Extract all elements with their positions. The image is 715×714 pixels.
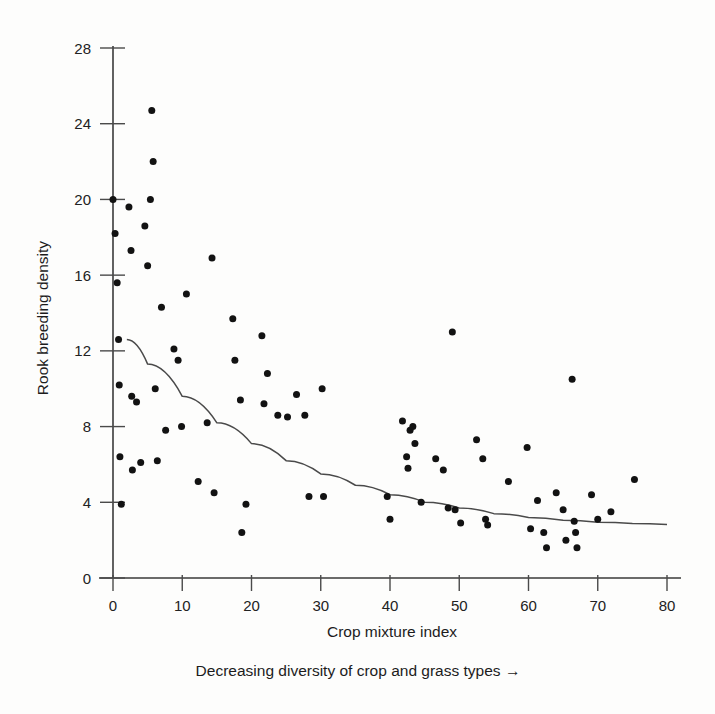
data-point: [409, 423, 416, 430]
data-point: [445, 504, 452, 511]
x-tick-label: 10: [174, 597, 191, 614]
x-tick-label: 80: [659, 597, 676, 614]
data-point: [560, 506, 567, 513]
data-point: [158, 304, 165, 311]
data-point: [110, 196, 117, 203]
data-point: [154, 457, 161, 464]
data-point: [231, 357, 238, 364]
y-tick-label: 4: [83, 494, 91, 511]
data-point: [178, 423, 185, 430]
data-point: [293, 391, 300, 398]
y-axis-title: Rook breeding density: [34, 241, 51, 395]
x-tick-label: 30: [312, 597, 329, 614]
data-point: [588, 491, 595, 498]
y-tick-label: 12: [74, 342, 91, 359]
x-axis-title: Crop mixture index: [327, 623, 457, 640]
x-tick-label: 70: [589, 597, 606, 614]
data-point: [116, 381, 123, 388]
data-point: [569, 376, 576, 383]
data-point: [432, 455, 439, 462]
y-tick-label: 28: [74, 40, 91, 57]
data-point: [631, 476, 638, 483]
data-point: [162, 427, 169, 434]
data-point: [505, 478, 512, 485]
data-point: [152, 385, 159, 392]
data-point: [147, 196, 154, 203]
scatter-plot: 0481216202428 01020304050607080 Rook bre…: [0, 0, 715, 714]
data-point: [128, 393, 135, 400]
data-point: [125, 204, 132, 211]
y-tick-label: 0: [83, 570, 91, 587]
y-tick-label: 16: [74, 267, 91, 284]
data-point: [183, 291, 190, 298]
data-point: [399, 417, 406, 424]
plot-background: [0, 0, 715, 714]
data-point: [204, 419, 211, 426]
data-point: [211, 489, 218, 496]
data-point: [440, 467, 447, 474]
data-point: [209, 255, 216, 262]
data-point: [238, 529, 245, 536]
data-point: [133, 398, 140, 405]
data-point: [473, 436, 480, 443]
y-tick-label: 8: [83, 418, 91, 435]
data-point: [118, 501, 125, 508]
data-point: [594, 516, 601, 523]
data-point: [144, 262, 151, 269]
data-point: [527, 525, 534, 532]
data-point: [387, 516, 394, 523]
data-point: [112, 230, 119, 237]
data-point: [114, 279, 121, 286]
data-point: [540, 529, 547, 536]
data-point: [274, 412, 281, 419]
data-point: [137, 459, 144, 466]
y-tick-label: 20: [74, 191, 91, 208]
data-point: [284, 414, 291, 421]
data-point: [571, 518, 578, 525]
data-point: [319, 385, 326, 392]
data-point: [403, 453, 410, 460]
data-point: [148, 107, 155, 114]
x-tick-label: 50: [451, 597, 468, 614]
data-point: [301, 412, 308, 419]
data-point: [320, 493, 327, 500]
data-point: [457, 520, 464, 527]
data-point: [543, 544, 550, 551]
data-point: [405, 465, 412, 472]
data-point: [607, 508, 614, 515]
data-point: [116, 453, 123, 460]
y-tick-label: 24: [74, 115, 91, 132]
sub-caption: Decreasing diversity of crop and grass t…: [196, 662, 521, 679]
data-point: [562, 537, 569, 544]
data-point: [242, 501, 249, 508]
data-point: [452, 506, 459, 513]
data-point: [479, 455, 486, 462]
data-point: [484, 522, 491, 529]
data-point: [115, 336, 122, 343]
data-point: [384, 493, 391, 500]
data-point: [141, 222, 148, 229]
data-point: [534, 497, 541, 504]
data-point: [260, 400, 267, 407]
x-tick-label: 60: [520, 597, 537, 614]
data-point: [449, 328, 456, 335]
data-point: [175, 357, 182, 364]
data-point: [264, 370, 271, 377]
data-point: [237, 397, 244, 404]
data-point: [305, 493, 312, 500]
data-point: [411, 440, 418, 447]
data-point: [129, 467, 136, 474]
data-point: [524, 444, 531, 451]
x-tick-label: 0: [109, 597, 117, 614]
x-tick-label: 20: [243, 597, 260, 614]
data-point: [229, 315, 236, 322]
data-point: [572, 529, 579, 536]
data-point: [553, 489, 560, 496]
x-tick-label: 40: [382, 597, 399, 614]
data-point: [573, 544, 580, 551]
data-point: [170, 345, 177, 352]
figure-container: 0481216202428 01020304050607080 Rook bre…: [0, 0, 715, 714]
data-point: [418, 499, 425, 506]
data-point: [258, 332, 265, 339]
data-point: [195, 478, 202, 485]
